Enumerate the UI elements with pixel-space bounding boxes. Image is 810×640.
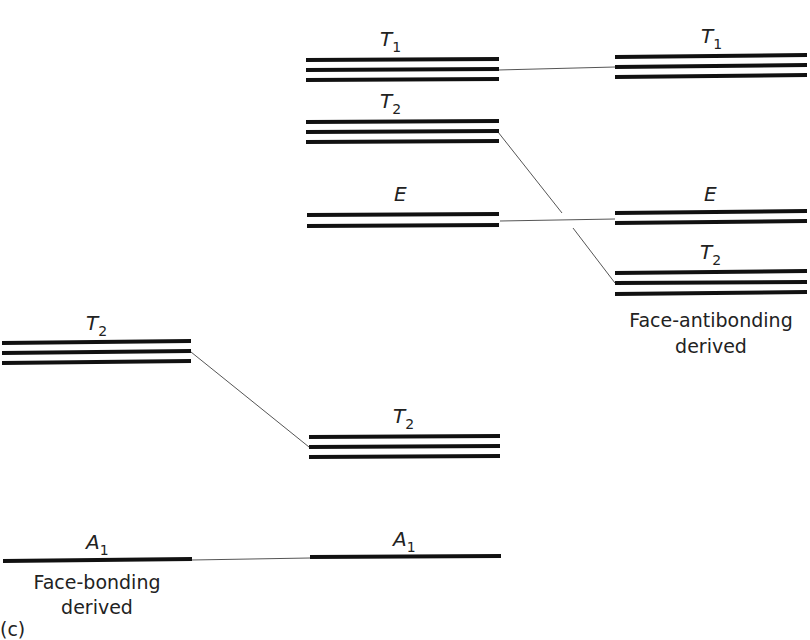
level-right-E: E bbox=[615, 182, 807, 223]
connector-left-T2-mid-T2 bbox=[191, 352, 309, 447]
label-mid-T2-upper: T2 bbox=[380, 89, 401, 117]
level-mid-T2-lower: T2 bbox=[309, 404, 500, 457]
label-mid-T1: T1 bbox=[380, 27, 401, 55]
label-right-T2: T2 bbox=[700, 240, 721, 268]
caption-face-antibonding-line2: derived bbox=[675, 335, 747, 357]
connector-mid-E-right-E bbox=[500, 219, 615, 221]
level-mid-A1: A1 bbox=[310, 527, 501, 557]
connector-mid-T2-right-T2 bbox=[498, 132, 562, 213]
label-right-T1: T1 bbox=[701, 24, 722, 52]
level-left-T2: T2 bbox=[2, 311, 191, 363]
caption-face-bonding-line2: derived bbox=[61, 596, 133, 618]
level-right-T2: T2 bbox=[615, 240, 807, 294]
level-mid-T1: T1 bbox=[306, 27, 499, 80]
mo-correlation-diagram: T1 T2 E T2 A1 T1 E bbox=[0, 0, 810, 640]
label-mid-A1: A1 bbox=[391, 527, 416, 555]
panel-label: (c) bbox=[0, 618, 25, 640]
connector-left-A1-mid-A1 bbox=[192, 558, 310, 560]
level-mid-E: E bbox=[307, 182, 499, 226]
caption-face-antibonding-line1: Face-antibonding bbox=[629, 309, 792, 331]
label-left-A1: A1 bbox=[84, 530, 109, 558]
level-left-A1: A1 bbox=[3, 530, 192, 561]
level-mid-T2-upper: T2 bbox=[306, 89, 499, 142]
label-left-T2: T2 bbox=[86, 311, 107, 339]
label-mid-E: E bbox=[394, 182, 407, 206]
level-right-T1: T1 bbox=[615, 24, 807, 77]
connector-mid-T2-right-T2-lower bbox=[573, 228, 615, 283]
connector-mid-T1-right-T1 bbox=[498, 67, 615, 70]
label-right-E: E bbox=[704, 182, 717, 206]
label-mid-T2-lower: T2 bbox=[393, 404, 414, 432]
caption-face-bonding-line1: Face-bonding bbox=[34, 571, 161, 593]
